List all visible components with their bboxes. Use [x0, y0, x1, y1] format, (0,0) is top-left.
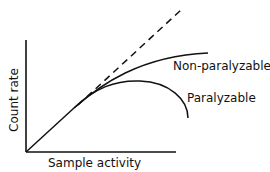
label-paralyzable: Paralyzable: [187, 91, 256, 105]
dead-time-diagram: Non-paralyzable Paralyzable Sample activ…: [0, 0, 270, 172]
linear-segment: [26, 108, 74, 152]
x-axis-label: Sample activity: [48, 156, 141, 170]
ideal-dashed-line: [78, 10, 181, 105]
label-non-paralyzable: Non-paralyzable: [173, 59, 270, 73]
y-axis-label: Count rate: [7, 68, 21, 132]
paralyzable-curve: [74, 81, 188, 118]
